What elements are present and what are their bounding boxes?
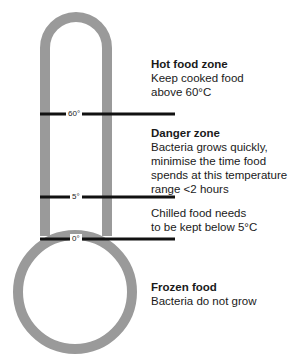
tick-label-5: 5° [70,192,82,201]
zone-description: Bacteria grows quickly, minimise the tim… [151,140,287,196]
hot-food-zone: Hot food zone Keep cooked food above 60°… [151,57,244,99]
danger-zone: Danger zone Bacteria grows quickly, mini… [151,126,287,196]
zone-title: Frozen food [151,280,256,294]
frozen-food-zone: Frozen food Bacteria do not grow [151,280,256,308]
chilled-food-zone: Chilled food needs to be kept below 5°C [151,206,257,234]
tick-label-0: 0° [70,234,82,243]
tick-label-60: 60° [66,109,82,118]
zone-description: Chilled food needs to be kept below 5°C [151,206,257,234]
zone-title: Danger zone [151,126,287,140]
zone-title: Hot food zone [151,57,244,71]
zone-description: Keep cooked food above 60°C [151,71,244,99]
zone-description: Bacteria do not grow [151,294,256,308]
